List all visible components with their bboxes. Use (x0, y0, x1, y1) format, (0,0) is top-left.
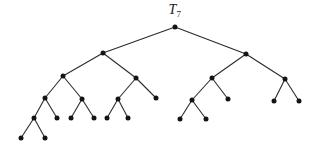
tree-node-LL (61, 74, 66, 79)
tree-edge-RL-RLR (212, 78, 228, 99)
tree-edge-RR-RRL (274, 79, 285, 101)
tree-node-LR (134, 76, 139, 81)
tree-node-RLR (226, 97, 231, 102)
tree-node-LLRa (69, 116, 74, 121)
tree-node-LLLLa (19, 136, 24, 141)
tree-node-LRLb (126, 116, 131, 121)
tree-edge-RLL-RLLa (180, 100, 192, 119)
tree-edge-LLLL-LLLLa (21, 118, 34, 138)
tree-node-LLLL (32, 116, 37, 121)
tree-node-R (244, 52, 249, 57)
tree-edge-LL-LLR (63, 76, 82, 99)
tree-node-LRL (116, 97, 121, 102)
tree-edge-LL-LLL (45, 76, 63, 98)
tree-edge-LR-LRR (136, 78, 156, 98)
tree-node-RRL (272, 99, 277, 104)
tree-node-LRR (154, 96, 159, 101)
tree-node-LLLLb (43, 136, 48, 141)
tree-edge-LLR-LLRb (82, 99, 94, 118)
tree-svg (0, 0, 322, 153)
tree-node-LLLR (55, 116, 60, 121)
tree-node-RLLa (178, 117, 183, 122)
tree-edge-LR-LRL (118, 78, 136, 99)
tree-node-LRLa (105, 116, 110, 121)
tree-node-LLRb (92, 116, 97, 121)
tree-edge-LLL-LLLR (45, 98, 57, 118)
tree-edge-R-RL (212, 54, 246, 78)
tree-edge-LRL-LRLb (118, 99, 128, 118)
tree-node-RRR (297, 99, 302, 104)
tree-node-L (101, 51, 106, 56)
tree-node-root (173, 25, 178, 30)
tree-edge-LLR-LLRa (71, 99, 82, 118)
tree-node-RL (210, 76, 215, 81)
fibonacci-tree-figure: T7 (0, 0, 322, 153)
tree-edge-LRL-LRLa (107, 99, 118, 118)
tree-title-base: T (169, 2, 177, 17)
tree-node-LLR (80, 97, 85, 102)
tree-edge-L-LR (103, 53, 136, 78)
tree-node-RLLb (204, 117, 209, 122)
tree-title: T7 (169, 3, 181, 21)
tree-node-RR (283, 77, 288, 82)
tree-edge-root-R (175, 27, 246, 54)
tree-edge-root-L (103, 27, 175, 53)
tree-title-subscript: 7 (176, 9, 181, 19)
tree-edge-R-RR (246, 54, 285, 79)
tree-edge-RR-RRR (285, 79, 299, 101)
tree-node-RLL (190, 98, 195, 103)
tree-edge-LLLL-LLLLb (34, 118, 45, 138)
tree-node-LLL (43, 96, 48, 101)
tree-edge-RLL-RLLb (192, 100, 206, 119)
tree-edge-L-LL (63, 53, 103, 76)
tree-edge-LLL-LLLL (34, 98, 45, 118)
tree-edge-RL-RLL (192, 78, 212, 100)
